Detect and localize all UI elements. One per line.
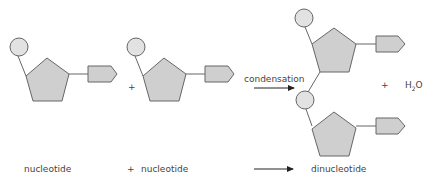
base-icon xyxy=(205,66,234,82)
plus-sign: + xyxy=(128,82,136,92)
plus-sign: + xyxy=(127,164,135,174)
water-label: H2O xyxy=(405,80,423,92)
water-o: O xyxy=(416,80,423,90)
plus-sign: + xyxy=(381,80,389,90)
diagram-canvas xyxy=(0,0,425,186)
base-icon xyxy=(376,118,405,134)
sugar-pentagon-icon xyxy=(26,58,69,101)
phosphate-icon xyxy=(296,91,314,109)
condensation-label: condensation xyxy=(244,74,305,84)
nucleotide-label-1: nucleotide xyxy=(24,164,71,174)
phosphate-icon xyxy=(127,38,145,56)
base-icon xyxy=(376,36,405,52)
phosphodiester-bond xyxy=(308,72,320,92)
base-icon xyxy=(88,66,117,82)
sugar-pentagon-icon xyxy=(312,28,356,72)
phosphate-icon xyxy=(10,38,28,56)
nucleotide-1 xyxy=(10,38,117,101)
nucleotide-label-2: nucleotide xyxy=(141,164,188,174)
sugar-pentagon-icon xyxy=(143,58,186,101)
nucleotide-2 xyxy=(127,38,234,101)
dinucleotide-label: dinucleotide xyxy=(311,164,366,174)
dinucleotide-bottom-unit xyxy=(296,91,405,156)
phosphate-icon xyxy=(295,9,313,27)
water-h: H xyxy=(405,80,412,90)
sugar-pentagon-icon xyxy=(312,112,356,156)
